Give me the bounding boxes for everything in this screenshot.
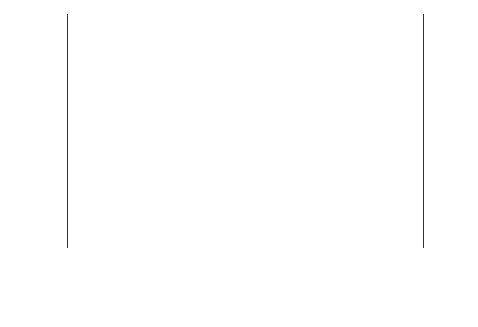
plot-canvas bbox=[68, 14, 425, 248]
plot-area bbox=[67, 14, 424, 248]
legend-item-lw-top bbox=[210, 232, 234, 234]
legend-swatch-lw-2m bbox=[260, 232, 280, 234]
legend-swatch-lw-top bbox=[210, 232, 230, 234]
legend-item-lw-2m bbox=[260, 232, 284, 234]
leaf-wetness-rainfall-chart bbox=[0, 0, 478, 327]
legend bbox=[210, 232, 284, 234]
